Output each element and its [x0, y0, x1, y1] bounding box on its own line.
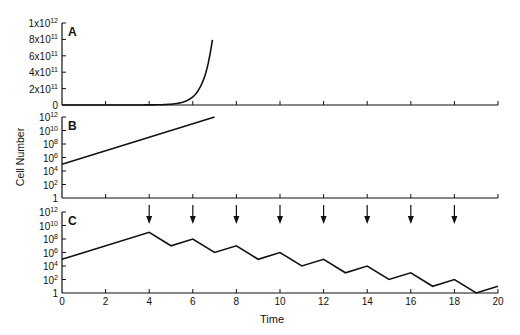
panel-b: 110210410610810101012B — [39, 111, 498, 204]
y-tick-label: 4x1011 — [29, 66, 58, 78]
y-tick-label: 1012 — [39, 206, 58, 218]
x-tick-label: 20 — [492, 296, 504, 307]
data-line — [62, 117, 215, 164]
y-tick-label: 1x1012 — [29, 17, 59, 29]
y-tick-label: 104 — [43, 165, 58, 177]
x-tick-label: 0 — [59, 296, 65, 307]
x-tick-label: 8 — [234, 296, 240, 307]
dose-arrow-icon — [146, 205, 152, 224]
data-line — [62, 40, 212, 105]
panel-label: C — [68, 214, 77, 228]
panel-a: 02x10114x10116x10118x10111x1012A — [29, 17, 498, 111]
y-tick-label: 102 — [43, 179, 58, 191]
x-axis-label: Time — [260, 313, 284, 325]
y-tick-label: 1 — [52, 288, 58, 299]
y-tick-label: 108 — [43, 233, 58, 245]
y-axis-label: Cell Number — [14, 117, 26, 197]
panel-label: A — [68, 25, 77, 39]
y-tick-label: 1 — [52, 193, 58, 204]
x-tick-label: 18 — [449, 296, 461, 307]
dose-arrow-icon — [233, 205, 239, 224]
cell-number-chart: 02x10114x10116x10118x10111x1012A11021041… — [0, 0, 520, 335]
y-tick-label: 1012 — [39, 111, 58, 123]
y-tick-label: 106 — [43, 247, 58, 259]
y-tick-label: 106 — [43, 152, 58, 164]
dose-arrow-icon — [364, 205, 370, 224]
x-tick-label: 2 — [103, 296, 109, 307]
panel-label: B — [68, 119, 77, 133]
x-tick-label: 16 — [405, 296, 417, 307]
data-line — [62, 232, 498, 293]
dose-arrow-icon — [321, 205, 327, 224]
dose-arrow-icon — [190, 205, 196, 224]
x-tick-label: 4 — [146, 296, 152, 307]
y-tick-label: 1010 — [39, 220, 58, 232]
y-tick-label: 108 — [43, 138, 58, 150]
y-tick-label: 8x1011 — [29, 33, 58, 45]
x-tick-label: 12 — [318, 296, 330, 307]
y-tick-label: 102 — [43, 274, 58, 286]
y-tick-label: 6x1011 — [29, 50, 58, 62]
y-tick-label: 104 — [43, 260, 58, 272]
y-tick-label: 2x1011 — [29, 83, 58, 95]
dose-arrow-icon — [451, 205, 457, 224]
x-tick-label: 6 — [190, 296, 196, 307]
x-tick-label: 14 — [362, 296, 374, 307]
panel-c: 11021041061081010101202468101214161820C — [39, 205, 504, 307]
x-tick-label: 10 — [274, 296, 286, 307]
dose-arrow-icon — [408, 205, 414, 224]
y-tick-label: 1010 — [39, 125, 58, 137]
y-tick-label: 0 — [52, 100, 58, 111]
dose-arrow-icon — [277, 205, 283, 224]
